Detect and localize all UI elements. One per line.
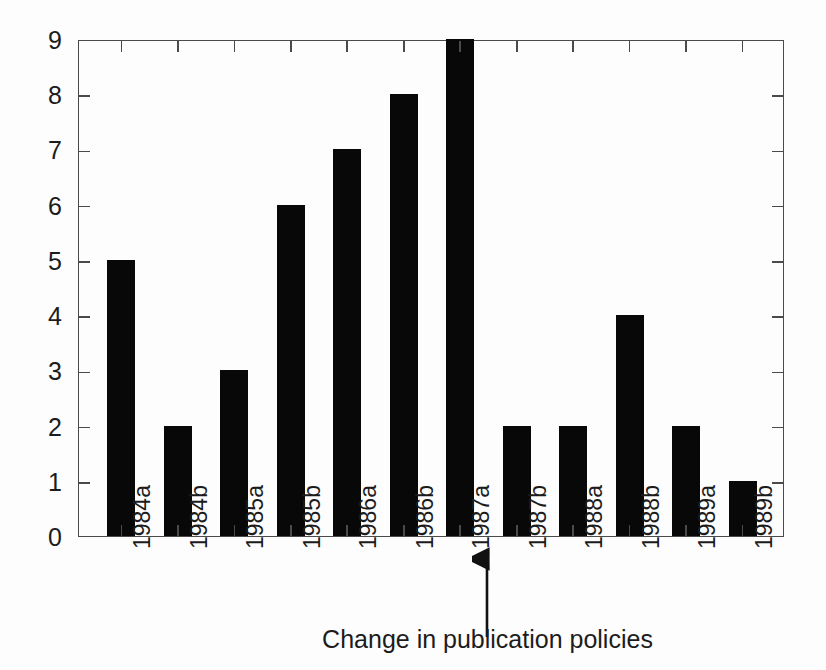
bar-chart-figure: 0123456789 1984a1984b1985a1985b1986a1986… bbox=[0, 0, 826, 670]
x-axis-tick-label: 1989a bbox=[694, 485, 721, 549]
x-axis-tick-labels: 1984a1984b1985a1985b1986a1986b1987a1987b… bbox=[0, 0, 826, 670]
x-axis-tick-label: 1985a bbox=[242, 485, 269, 549]
x-axis-tick-label: 1984b bbox=[186, 485, 213, 549]
x-axis-tick-label: 1986b bbox=[412, 485, 439, 549]
x-axis-caption: Change in publication policies bbox=[0, 625, 826, 654]
x-axis-tick-label: 1988a bbox=[581, 485, 608, 549]
x-axis-tick-label: 1985b bbox=[299, 485, 326, 549]
x-axis-tick-label: 1986a bbox=[355, 485, 382, 549]
x-axis-tick-label: 1988b bbox=[638, 485, 665, 549]
x-axis-tick-label: 1987b bbox=[525, 485, 552, 549]
x-axis-tick-label: 1987a bbox=[468, 485, 495, 549]
x-axis-tick-label: 1984a bbox=[129, 485, 156, 549]
x-axis-tick-label: 1989b bbox=[751, 485, 778, 549]
